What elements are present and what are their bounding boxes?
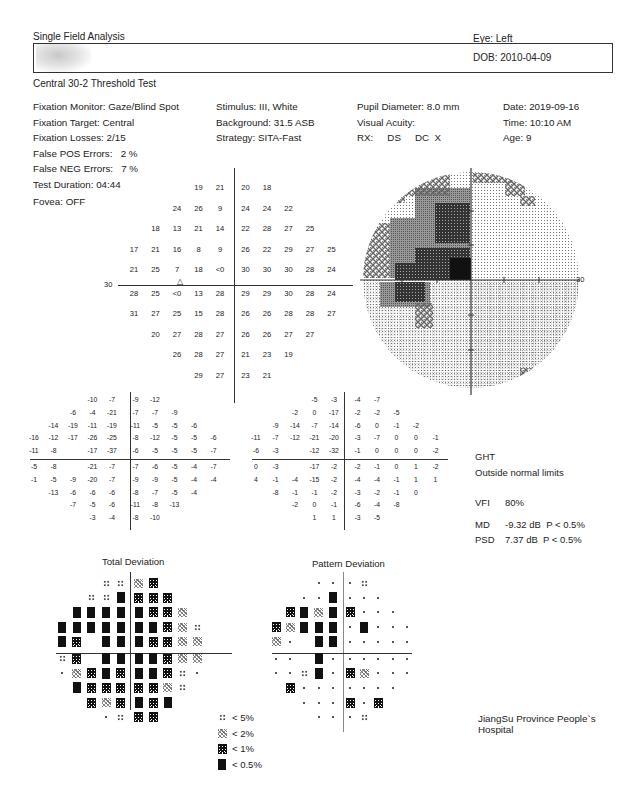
pd-probability-symbol-icon — [344, 697, 356, 709]
legend-item-5pct: < 5% — [216, 710, 262, 726]
pd-probability-symbol-icon — [284, 653, 296, 665]
pd-probability-symbol-icon — [401, 667, 413, 679]
pd-probability-symbol-icon — [327, 592, 339, 604]
pd-probability-symbol-icon — [313, 636, 325, 648]
solid-block-symbol-icon — [216, 758, 228, 770]
pd-probability-symbol-icon — [270, 653, 282, 665]
pd-probability-symbol-icon — [372, 592, 384, 604]
pd-probability-symbol-icon — [358, 592, 370, 604]
pd-probability-symbol-icon — [387, 682, 399, 694]
pd-probability-symbol-icon — [327, 621, 339, 633]
pd-probability-symbol-icon — [327, 577, 339, 589]
pd-probability-symbol-icon — [298, 682, 310, 694]
pd-probability-symbol-icon — [327, 711, 339, 723]
pd-probability-symbol-icon — [372, 636, 384, 648]
pd-probability-symbol-icon — [327, 636, 339, 648]
pd-probability-symbol-icon — [387, 621, 399, 633]
pd-probability-symbol-icon — [344, 636, 356, 648]
pd-probability-symbol-icon — [401, 636, 413, 648]
probability-legend: < 5% < 2% < 1% < 0.5% — [216, 710, 262, 772]
pd-probability-symbol-icon — [284, 682, 296, 694]
pd-probability-symbol-icon — [327, 697, 339, 709]
pd-probability-symbol-icon — [270, 621, 282, 633]
pd-probability-symbol-icon — [387, 606, 399, 618]
pd-probability-symbol-icon — [270, 667, 282, 679]
pd-probability-symbol-icon — [358, 606, 370, 618]
pd-probability-symbol-icon — [358, 577, 370, 589]
legend-item-1pct: < 1% — [216, 741, 262, 757]
pd-probability-symbol-icon — [298, 592, 310, 604]
pd-probability-symbol-icon — [344, 577, 356, 589]
pattern-deviation-probability-plot — [0, 0, 630, 795]
pd-probability-symbol-icon — [358, 621, 370, 633]
pd-probability-symbol-icon — [298, 621, 310, 633]
pd-probability-symbol-icon — [372, 653, 384, 665]
pd-probability-symbol-icon — [284, 606, 296, 618]
pd-probability-symbol-icon — [344, 682, 356, 694]
pd-probability-symbol-icon — [313, 592, 325, 604]
pd-probability-symbol-icon — [344, 606, 356, 618]
pd-probability-symbol-icon — [327, 653, 339, 665]
pd-probability-symbol-icon — [298, 606, 310, 618]
pd-probability-symbol-icon — [313, 697, 325, 709]
pd-probability-symbol-icon — [327, 606, 339, 618]
pd-probability-symbol-icon — [358, 682, 370, 694]
dark-hatch-symbol-icon — [216, 743, 228, 755]
pd-probability-symbol-icon — [387, 653, 399, 665]
pd-probability-symbol-icon — [344, 711, 356, 723]
pd-probability-symbol-icon — [270, 636, 282, 648]
pd-probability-symbol-icon — [284, 621, 296, 633]
pd-probability-symbol-icon — [284, 636, 296, 648]
pd-probability-symbol-icon — [313, 653, 325, 665]
pd-probability-symbol-icon — [358, 653, 370, 665]
pd-probability-symbol-icon — [298, 697, 310, 709]
pd-probability-symbol-icon — [327, 682, 339, 694]
pd-probability-symbol-icon — [372, 621, 384, 633]
pd-probability-symbol-icon — [327, 667, 339, 679]
pd-probability-symbol-icon — [401, 621, 413, 633]
pd-probability-symbol-icon — [358, 711, 370, 723]
pd-probability-symbol-icon — [313, 682, 325, 694]
hospital-name: JiangSu Province People`s Hospital — [478, 713, 630, 735]
pd-probability-symbol-icon — [372, 606, 384, 618]
legend-item-05pct: < 0.5% — [216, 757, 262, 773]
dotted-symbol-icon — [216, 712, 228, 724]
pd-probability-symbol-icon — [344, 592, 356, 604]
pd-probability-symbol-icon — [313, 577, 325, 589]
pd-probability-symbol-icon — [313, 711, 325, 723]
pd-probability-symbol-icon — [387, 667, 399, 679]
pd-probability-symbol-icon — [313, 621, 325, 633]
pd-probability-symbol-icon — [313, 606, 325, 618]
pd-probability-symbol-icon — [372, 667, 384, 679]
pd-probability-symbol-icon — [358, 667, 370, 679]
pd-probability-symbol-icon — [358, 697, 370, 709]
pd-probability-symbol-icon — [344, 667, 356, 679]
pd-probability-symbol-icon — [313, 667, 325, 679]
pd-probability-symbol-icon — [358, 636, 370, 648]
pd-probability-symbol-icon — [401, 653, 413, 665]
light-hatch-symbol-icon — [216, 727, 228, 739]
pd-probability-symbol-icon — [298, 667, 310, 679]
pd-probability-symbol-icon — [372, 697, 384, 709]
pd-probability-symbol-icon — [372, 682, 384, 694]
pd-probability-symbol-icon — [387, 636, 399, 648]
pd-probability-symbol-icon — [344, 653, 356, 665]
pd-probability-symbol-icon — [344, 621, 356, 633]
legend-item-2pct: < 2% — [216, 726, 262, 742]
pd-probability-symbol-icon — [284, 667, 296, 679]
